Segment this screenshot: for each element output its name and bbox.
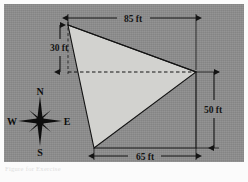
dimension-label-right: 50 ft <box>204 105 223 115</box>
compass-label-south: S <box>37 147 43 158</box>
compass-center-hub <box>36 117 45 126</box>
diagram-svg: 85 ft 30 ft 50 ft 65 ft N S E <box>0 0 248 182</box>
compass-label-north: N <box>36 86 44 97</box>
shaded-triangle <box>68 25 196 148</box>
compass-label-east: E <box>64 116 71 127</box>
compass-rose-icon <box>18 96 62 146</box>
dimension-label-bottom: 65 ft <box>136 152 155 162</box>
figure-root: 85 ft 30 ft 50 ft 65 ft N S E <box>0 0 248 182</box>
figure-caption: Figure for Exercise <box>5 165 125 179</box>
dimension-label-left: 30 ft <box>50 43 69 53</box>
dimension-label-top: 85 ft <box>124 14 143 24</box>
compass-label-west: W <box>7 116 17 127</box>
